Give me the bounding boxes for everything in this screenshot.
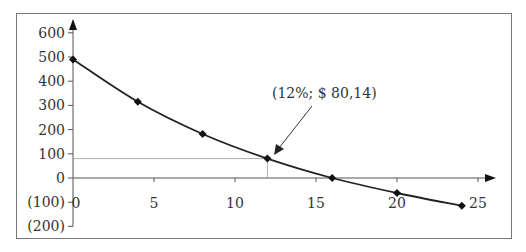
x-tick-label: 15 — [307, 195, 325, 211]
data-point-marker — [199, 130, 207, 138]
x-tick-label: 25 — [469, 195, 487, 211]
y-tick-label: 0 — [56, 170, 65, 186]
y-tick-label: 300 — [38, 97, 65, 113]
y-tick-label: 500 — [38, 49, 65, 65]
annotation-label: (12%; $ 80,14) — [272, 85, 377, 101]
data-point-marker — [263, 155, 271, 163]
y-tick-label: 200 — [38, 122, 65, 138]
data-point-marker — [328, 174, 336, 182]
y-axis-arrow-icon — [69, 19, 77, 30]
data-line — [73, 59, 462, 205]
x-axis-arrow-icon — [485, 174, 496, 182]
y-tick-label: 600 — [38, 25, 65, 41]
x-tick-label: 20 — [388, 195, 406, 211]
y-tick-label: 400 — [38, 73, 65, 89]
y-tick-label: (200) — [27, 218, 65, 234]
x-tick-label: 0 — [72, 195, 81, 211]
y-tick-label: 100 — [38, 146, 65, 162]
annotation-arrowhead-icon — [274, 144, 284, 155]
y-tick-label: (100) — [27, 194, 65, 210]
x-tick-label: 10 — [226, 195, 244, 211]
data-point-marker — [458, 202, 466, 210]
data-point-marker — [134, 98, 142, 106]
x-tick-label: 5 — [150, 195, 159, 211]
line-chart: 6005004003002001000(100)(200)0510152025(… — [0, 0, 526, 252]
annotation-arrow — [279, 106, 312, 148]
